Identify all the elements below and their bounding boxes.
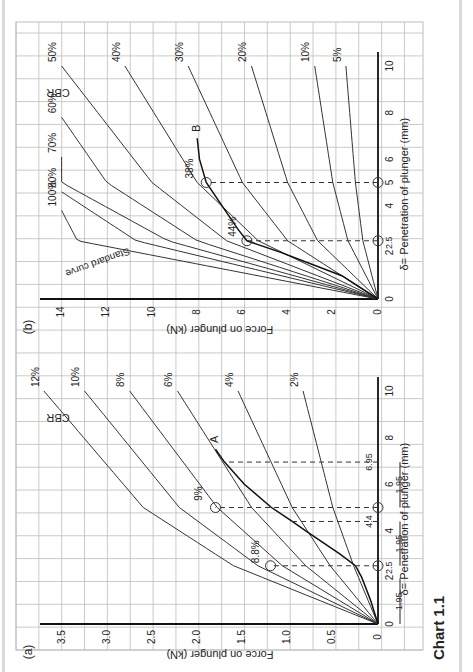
penetration-tick-label: 2: [384, 574, 395, 580]
dimension-label: 1.95: [394, 476, 404, 494]
test-curve-label: A: [208, 435, 220, 443]
penetration-tick-label: 10: [384, 60, 395, 72]
curve-label: 60%: [47, 93, 58, 113]
penetration-tick-label: 4: [384, 203, 395, 209]
dimension-label: 1.95: [394, 593, 404, 611]
force-tick-label: 2.5: [146, 630, 157, 644]
force-tick-label: 8: [191, 309, 202, 315]
curve-label: 100%: [47, 181, 58, 207]
force-tick-label: 4: [281, 309, 292, 315]
force-tick-label: 10: [146, 306, 157, 318]
curve-label: 10%: [70, 367, 81, 387]
penetration-tick-label: 10: [384, 385, 395, 397]
curve-label: 5%: [332, 47, 343, 62]
curve-label: 8%: [115, 372, 126, 387]
cbr-percent-label: 9%: [193, 486, 204, 501]
force-tick-label: 2.0: [191, 630, 202, 644]
penetration-tick-label: 2: [384, 249, 395, 255]
curve-label: 50%: [47, 42, 58, 62]
penetration-tick-label: 8: [384, 109, 395, 115]
panel-label: (b): [21, 320, 35, 335]
penetration-tick-label: 4: [384, 528, 395, 534]
curve-label: 40%: [111, 42, 122, 62]
force-axis-label: Force on plunger (kN): [166, 324, 273, 336]
force-tick-label: 0: [372, 634, 383, 640]
penetration-tick-label: 0: [384, 296, 395, 302]
cbr-percent-label: 44%: [227, 217, 238, 237]
force-tick-label: 0: [372, 309, 383, 315]
dimension-label: 1.95: [394, 535, 404, 553]
force-tick-label: 12: [100, 306, 111, 318]
force-tick-label: 6: [236, 309, 247, 315]
cbr-percent-label: 8.8%: [250, 540, 261, 563]
penetration-tick-label: 8: [384, 434, 395, 440]
curve-label: 10%: [300, 42, 311, 62]
penetration-axis-label: δ= Penetration of plunger (mm): [398, 118, 410, 271]
cbr-percent-label: 38%: [184, 158, 195, 178]
curve-label: 70%: [47, 133, 58, 153]
force-tick-label: 1.0: [281, 630, 292, 644]
force-tick-label: 14: [55, 306, 66, 318]
value-label: 2.5: [384, 561, 394, 574]
force-tick-label: 1.5: [236, 630, 247, 644]
curve-label: 30%: [174, 42, 185, 62]
force-axis-label: Force on plunger (kN): [166, 649, 273, 661]
force-tick-label: 0.5: [326, 630, 337, 644]
panel-label: (a): [21, 645, 35, 660]
value-label: 2.5: [384, 236, 394, 249]
curve-label: 2%: [289, 372, 300, 387]
force-tick-label: 2: [326, 309, 337, 315]
curve-label: 20%: [237, 42, 248, 62]
curve-label: 6%: [163, 372, 174, 387]
curve-label: 12%: [30, 367, 41, 387]
force-tick-label: 3.0: [101, 630, 112, 644]
penetration-tick-label: 5: [384, 179, 395, 185]
force-tick-label: 3.5: [56, 630, 67, 644]
test-curve-label: B: [190, 125, 202, 132]
penetration-tick-label: 6: [384, 481, 395, 487]
penetration-tick-label: 6: [384, 156, 395, 162]
curve-label: 4%: [224, 372, 235, 387]
penetration-tick-label: 0: [384, 621, 395, 627]
chart-caption: Chart 1.1: [430, 596, 447, 660]
cbr-chart: 0246810121402456810(b)Force on plunger (…: [0, 0, 473, 672]
